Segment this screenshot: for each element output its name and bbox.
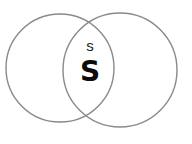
intersection-large-label: S [0,58,186,86]
venn-diagram-canvas: s S [0,0,192,144]
intersection-small-label: s [0,38,186,53]
